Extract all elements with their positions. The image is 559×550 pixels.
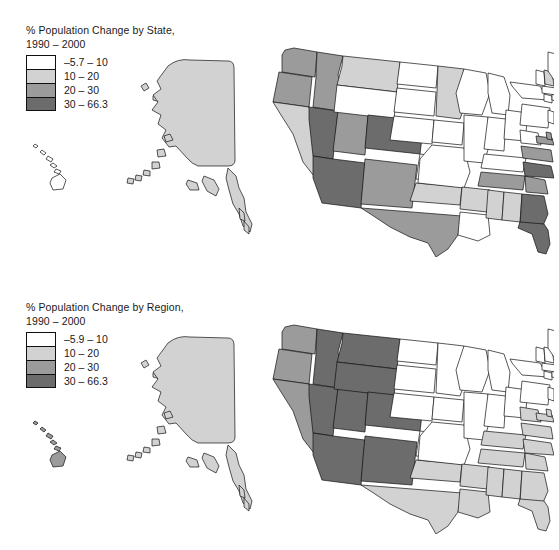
- state-PA: [520, 104, 550, 128]
- alaska-mainland: [127, 60, 235, 196]
- state-AR: [460, 187, 490, 212]
- state-SD: [394, 88, 436, 116]
- state-WA: [282, 48, 317, 77]
- conus-map-state: [258, 42, 554, 257]
- state-SD: [394, 365, 436, 393]
- state-TX: [361, 208, 462, 257]
- state-NM: [361, 436, 417, 485]
- state-CT: [544, 371, 552, 380]
- state-TN: [478, 449, 525, 467]
- state-KY: [481, 431, 526, 449]
- state-IN: [484, 394, 506, 428]
- state-CT: [544, 94, 552, 103]
- state-AL: [502, 469, 522, 499]
- state-FL: [518, 222, 550, 254]
- state-LA: [458, 489, 490, 518]
- state-IA: [432, 397, 464, 422]
- state-UT: [333, 111, 368, 155]
- state-DE: [546, 409, 552, 417]
- state-SC: [525, 453, 548, 471]
- state-TX: [361, 485, 462, 534]
- conus-map-region: [258, 319, 554, 534]
- states: [273, 325, 554, 534]
- map-panel-region: % Population Change by Region, 1990 – 20…: [0, 277, 559, 549]
- state-MO: [418, 145, 470, 188]
- state-MS: [486, 190, 504, 220]
- alaska-inset-region: [108, 335, 268, 520]
- state-AL: [502, 192, 522, 222]
- state-NJ: [548, 110, 554, 124]
- map-canvas-state: [0, 0, 559, 272]
- state-RI: [552, 371, 554, 378]
- state-AZ: [313, 433, 365, 485]
- state-AR: [460, 464, 490, 489]
- state-ND: [397, 339, 438, 365]
- state-TN: [478, 172, 525, 190]
- map-panel-state: % Population Change by State, 1990 – 200…: [0, 0, 559, 272]
- state-LA: [458, 212, 490, 241]
- state-UT: [333, 388, 368, 432]
- state-MO: [418, 422, 470, 465]
- hawaii-islands: [33, 421, 66, 467]
- state-ND: [397, 62, 438, 88]
- map-canvas-region: [0, 277, 559, 549]
- state-MS: [486, 467, 504, 497]
- alaska-panhandle: [226, 168, 252, 234]
- state-VT: [536, 347, 545, 363]
- hawaii-islands: [33, 144, 66, 190]
- state-OR: [273, 349, 312, 384]
- state-MI: [488, 73, 510, 115]
- state-VT: [536, 70, 545, 86]
- state-FL: [518, 499, 550, 531]
- state-AZ: [313, 156, 365, 208]
- state-SC: [525, 176, 548, 194]
- state-RI: [552, 94, 554, 101]
- alaska-inset-state: [108, 58, 268, 243]
- state-WA: [282, 325, 317, 354]
- alaska-panhandle: [226, 445, 252, 511]
- state-NC: [523, 439, 554, 455]
- state-NC: [523, 162, 554, 178]
- alaska-mainland: [127, 337, 235, 473]
- state-MI: [488, 350, 510, 392]
- state-NE: [390, 393, 434, 421]
- state-OR: [273, 72, 312, 107]
- state-DE: [546, 132, 552, 140]
- states: [273, 48, 554, 257]
- state-IA: [432, 120, 464, 145]
- state-NE: [390, 116, 434, 144]
- state-IN: [484, 117, 506, 151]
- state-NM: [361, 159, 417, 208]
- state-NJ: [548, 387, 554, 401]
- state-PA: [520, 381, 550, 405]
- state-KY: [481, 154, 526, 172]
